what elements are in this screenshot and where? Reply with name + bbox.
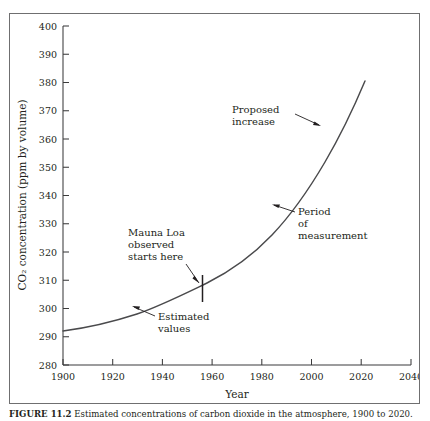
x-tick-label-1920: 1920: [101, 371, 125, 382]
annotation-period-line-2: of: [298, 218, 309, 229]
y-tick-label-290: 290: [39, 331, 57, 342]
annotation-mauna-loa-line-3: starts here: [128, 251, 183, 262]
annotation-estimated-values-line-2: values: [157, 323, 190, 334]
annotation-mauna-loa-line-2: observed: [128, 239, 175, 250]
y-tick-label-380: 380: [39, 77, 57, 88]
y-tick-label-360: 360: [39, 134, 57, 145]
x-tick-label-2040: 2040: [399, 371, 419, 382]
annotation-mauna-loa-arrow-icon: [193, 276, 200, 284]
co2-concentration-chart: 400 390 380 370 360 350 340 330 320 310 …: [10, 14, 419, 403]
annotation-proposed-increase: Proposed increase: [232, 104, 321, 127]
x-tick-label-1900: 1900: [51, 371, 75, 382]
annotation-period-arrow-icon: [272, 205, 280, 209]
figure-frame: 400 390 380 370 360 350 340 330 320 310 …: [9, 13, 420, 404]
annotation-period-line-3: measurement: [298, 230, 368, 241]
annotation-mauna-loa-line-1: Mauna Loa: [128, 227, 185, 238]
y-tick-label-330: 330: [39, 218, 57, 229]
annotation-period-of-measurement: Period of measurement: [272, 205, 368, 242]
y-tick-label-370: 370: [39, 105, 57, 116]
x-axis-title: Year: [224, 388, 249, 400]
annotation-estimated-values: Estimated values: [132, 306, 210, 334]
annotation-proposed-line-2: increase: [232, 116, 275, 127]
annotation-period-line-1: Period: [298, 206, 331, 217]
x-tick-label-2020: 2020: [349, 371, 373, 382]
figure-caption-label: FIGURE 11.2: [9, 409, 72, 419]
figure-caption-text: Estimated concentrations of carbon dioxi…: [74, 409, 413, 419]
y-tick-label-320: 320: [39, 247, 57, 258]
annotation-estimated-values-line-1: Estimated: [158, 311, 210, 322]
y-tick-label-300: 300: [39, 303, 57, 314]
y-tick-label-310: 310: [39, 275, 57, 286]
annotation-mauna-loa: Mauna Loa observed starts here: [128, 227, 199, 283]
annotation-proposed-line-1: Proposed: [232, 104, 280, 115]
x-tick-label-1960: 1960: [200, 371, 224, 382]
y-tick-label-340: 340: [39, 190, 57, 201]
axis-lines: [63, 26, 411, 365]
figure-container: 400 390 380 370 360 350 340 330 320 310 …: [0, 0, 430, 421]
y-tick-label-350: 350: [39, 162, 57, 173]
x-axis-ticks: 1900 1920 1940 1960 1980 2000 2020 2040: [51, 359, 419, 382]
y-tick-label-400: 400: [39, 21, 57, 32]
y-axis-ticks: 400 390 380 370 360 350 340 330 320 310 …: [39, 21, 69, 371]
y-axis-title: CO₂ concentration (ppm by volume): [16, 100, 28, 291]
y-tick-label-390: 390: [39, 49, 57, 60]
x-tick-label-2000: 2000: [299, 371, 323, 382]
figure-caption: FIGURE 11.2 Estimated concentrations of …: [9, 409, 421, 420]
annotation-proposed-arrow-icon: [313, 122, 321, 127]
y-tick-label-280: 280: [39, 360, 57, 371]
x-tick-label-1980: 1980: [250, 371, 274, 382]
x-tick-label-1940: 1940: [150, 371, 174, 382]
